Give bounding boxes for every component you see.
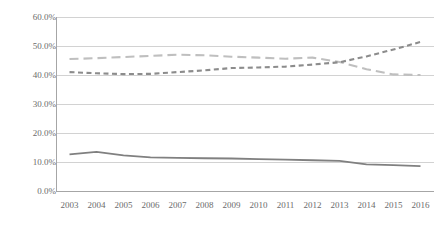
x-axis-tick-label: 2010: [245, 199, 272, 213]
y-axis-tick-label: 60.0%: [8, 13, 56, 22]
y-axis-tick-label: 30.0%: [8, 100, 56, 109]
x-axis-tick-label: 2015: [380, 199, 407, 213]
gridline-40: [56, 75, 434, 76]
gridline-60: [56, 17, 434, 18]
x-axis-line: [56, 191, 434, 192]
x-axis-tick-label: 2014: [353, 199, 380, 213]
x-axis-tick-label: 2013: [326, 199, 353, 213]
gridline-10: [56, 162, 434, 163]
y-axis-tick-label: 10.0%: [8, 158, 56, 167]
x-axis-tick-label: 2011: [272, 199, 299, 213]
y-axis-tick-label: 40.0%: [8, 71, 56, 80]
x-axis-tick-label: 2005: [110, 199, 137, 213]
x-axis-tick-label: 2004: [83, 199, 110, 213]
gridline-50: [56, 46, 434, 47]
x-axis-tick-label: 2009: [218, 199, 245, 213]
x-axis-tick-label: 2006: [137, 199, 164, 213]
x-axis-tick-label: 2012: [299, 199, 326, 213]
series-line-dark-gray-solid: [70, 152, 421, 166]
gridline-20: [56, 133, 434, 134]
x-axis-tick-labels: 2003 2004 2005 2006 2007 2008 2009 2010 …: [56, 199, 434, 213]
x-axis-tick-label: 2016: [407, 199, 434, 213]
chart-container: 60.0% 50.0% 40.0% 30.0% 20.0% 10.0% 0.0%…: [0, 0, 442, 242]
y-axis-tick-label: 20.0%: [8, 129, 56, 138]
series-line-light-gray-dashed: [70, 55, 421, 75]
x-axis-tick-label: 2008: [191, 199, 218, 213]
chart-title: [0, 0, 442, 2]
y-axis-line: [56, 17, 57, 192]
y-axis-tick-label: 50.0%: [8, 42, 56, 51]
y-axis-tick-label: 0.0%: [8, 187, 56, 196]
x-axis-tick-label: 2003: [56, 199, 83, 213]
gridline-30: [56, 104, 434, 105]
x-axis-tick-label: 2007: [164, 199, 191, 213]
